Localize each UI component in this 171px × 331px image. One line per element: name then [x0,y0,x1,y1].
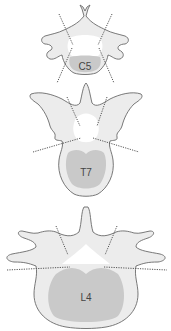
t7-canal [73,114,99,143]
c5-label: C5 [79,61,92,72]
vertebra-c5: C5 [42,5,129,83]
vertebra-t7: T7 [30,83,142,196]
vertebra-l4: L4 [7,207,167,329]
l4-label: L4 [80,292,92,303]
t7-label: T7 [80,167,92,178]
c5-canal [68,35,103,56]
vertebrae-diagram: C5 T7 L4 [0,0,171,331]
